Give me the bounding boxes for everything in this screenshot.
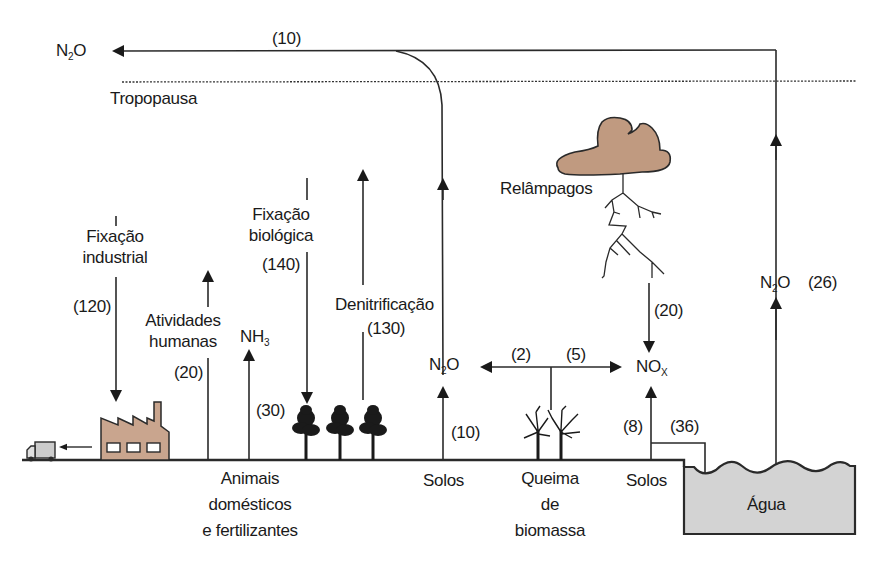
industrial-fixation-label: Fixação industrial [60, 226, 170, 268]
denitrification-flux-value: (130) [367, 318, 405, 339]
nh3-flux-value: (30) [256, 400, 285, 421]
biological-fixation-label: Fixação biológica [246, 204, 316, 246]
lightning-label: Relâmpagos [500, 178, 592, 199]
factory-icon [101, 402, 169, 460]
human-activities-label: Atividades humanas [140, 310, 226, 352]
soil-nox-flux-value: (8) [623, 416, 643, 437]
lightning-flux-value: (20) [654, 300, 683, 321]
denitrification-label: Denitrificação [335, 294, 434, 315]
soil-to-water-flux-value: (36) [670, 416, 699, 437]
tropopause-label: Tropopausa [110, 88, 197, 109]
soils-label-1: Solos [423, 470, 464, 491]
forest-trees-icon [292, 405, 387, 460]
tropopause-line [122, 81, 856, 82]
nox-label: NOX [636, 356, 667, 377]
burning-biomass-trees-icon [524, 406, 580, 460]
soils-label-2: Solos [626, 470, 667, 491]
top-n2o-flux-arrow [118, 50, 776, 465]
biomass-flux-left-value: (2) [511, 344, 531, 365]
soil-n2o-flux-value: (10) [451, 422, 480, 443]
animals-fertilizers-label: Animais domésticos e fertilizantes [190, 466, 310, 544]
n2o-stratosphere-label: N2O [56, 40, 86, 61]
water-n2o-label: N2O [760, 272, 790, 293]
water-label: Água [747, 494, 786, 515]
water-n2o-flux-value: (26) [808, 272, 837, 293]
nh3-label: NH3 [240, 326, 269, 347]
top-flux-value: (10) [272, 28, 301, 49]
soil-n2o-label: N2O [429, 354, 459, 375]
biomass-flux-right-value: (5) [566, 344, 586, 365]
truck-icon [27, 442, 55, 462]
biomass-burning-label: Queima de biomassa [510, 466, 590, 544]
human-activities-flux-value: (20) [174, 362, 203, 383]
biological-fixation-flux-value: (140) [262, 254, 300, 275]
thundercloud-icon [557, 118, 671, 176]
industrial-fixation-flux-value: (120) [73, 296, 111, 317]
lightning-bolt-icon [602, 174, 664, 278]
